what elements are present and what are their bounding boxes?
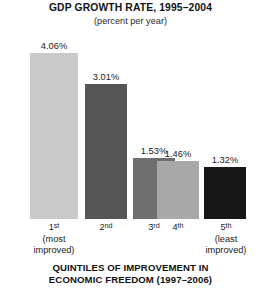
category-ordinal-5: 5th [180, 222, 261, 234]
category-ordinal-suffix-2: nd [105, 221, 113, 230]
category-ordinal-suffix-1: st [54, 221, 60, 230]
bar-group-2: 3.01% [85, 84, 127, 219]
plot-area: 4.06% 3.01% 1.53% 1.46% 1.32% [0, 0, 261, 219]
category-ordinal-2: 2nd [81, 222, 131, 234]
bar-4[interactable] [157, 161, 199, 219]
gdp-growth-rate-bar-chart: GDP GROWTH RATE, 1995–2004 (percent per … [0, 0, 261, 291]
category-label-5: 5th (least improved) [180, 222, 261, 257]
category-note-line2-1: improved) [8, 245, 100, 257]
bar-group-5: 1.32% [204, 167, 246, 219]
bar-value-label-2: 3.01% [93, 72, 119, 82]
category-note-line1-1: (most [8, 234, 100, 246]
category-note-line1-5: (least [180, 234, 261, 246]
category-axis-labels: 1st (most improved) 2nd 3rd 4th 5th (lea… [0, 220, 261, 262]
chart-caption-line1: QUINTILES OF IMPROVEMENT IN [0, 262, 261, 274]
bar-group-1: 4.06% [30, 53, 78, 219]
bar-value-label-5: 1.32% [212, 155, 238, 165]
chart-caption: QUINTILES OF IMPROVEMENT IN ECONOMIC FRE… [0, 262, 261, 286]
bar-group-4: 1.46% [157, 161, 199, 219]
category-ordinal-suffix-5: th [226, 221, 232, 230]
bar-2[interactable] [85, 84, 127, 219]
bar-value-label-3: 1.53% [141, 146, 167, 156]
bar-value-label-4: 1.46% [165, 149, 191, 159]
chart-caption-line2: ECONOMIC FREEDOM (1997–2006) [0, 274, 261, 286]
bar-1[interactable] [30, 53, 78, 219]
category-label-2: 2nd [81, 222, 131, 234]
bar-value-label-1: 4.06% [41, 41, 67, 51]
category-note-line2-5: improved) [180, 245, 261, 257]
bar-5[interactable] [204, 167, 246, 219]
